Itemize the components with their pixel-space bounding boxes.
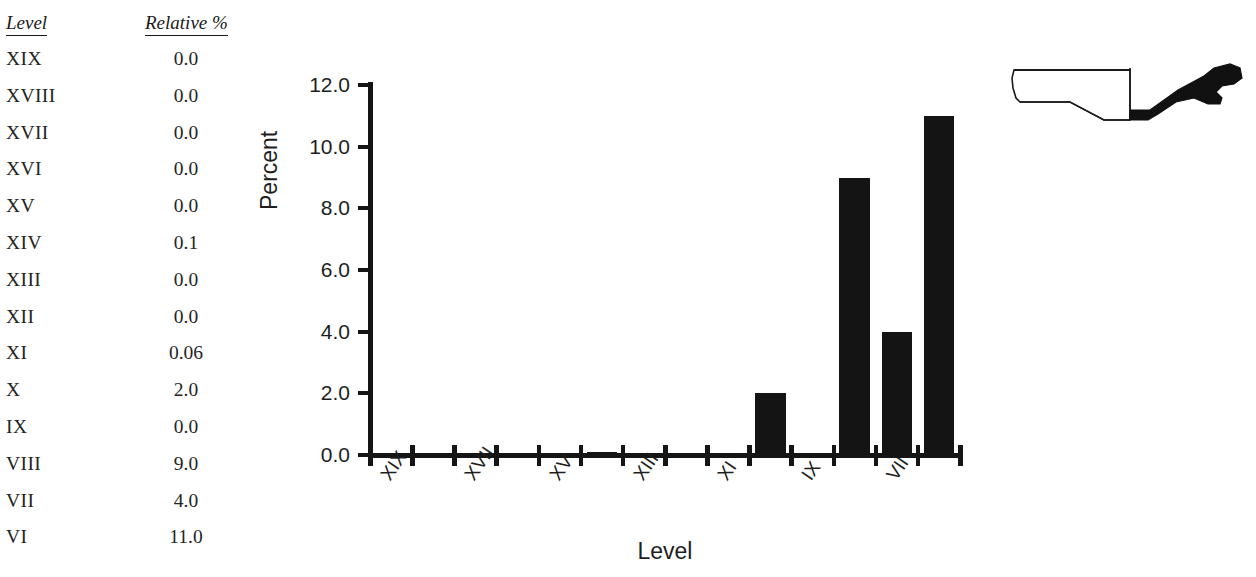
x-axis-tick-label: VII [882,453,913,485]
table-row: VI11.0 [0,526,268,556]
bar-VIII [839,178,869,456]
bars-layer [370,85,960,455]
x-axis-tick-label: XI [713,457,741,484]
y-axis-tick-label: 0.0 [321,443,350,467]
y-axis-tick: 6.0 [358,268,370,272]
table-cell-percent: 0.0 [140,85,232,107]
table-cell-level: X [6,379,20,401]
y-axis-tick-label: 12.0 [309,73,350,97]
y-axis-tick-label: 10.0 [309,135,350,159]
table-cell-level: XVI [6,158,42,180]
y-axis-tick-label: 8.0 [321,196,350,220]
bar-X [755,393,785,455]
table-row: VIII9.0 [0,453,268,483]
relative-percent-table: Level Relative % XIX0.0XVIII0.0XVII0.0XV… [0,0,268,560]
table-cell-level: VI [6,526,27,548]
table-row: XIII0.0 [0,269,268,299]
table-cell-percent: 2.0 [140,379,232,401]
table-cell-percent: 0.1 [140,232,232,254]
table-cell-level: IX [6,416,27,438]
table-row: XII0.0 [0,306,268,336]
table-cell-level: XIX [6,48,42,70]
table-cell-percent: 9.0 [140,453,232,475]
vessel-section-fill [1130,64,1242,120]
y-axis-tick: 10.0 [358,145,370,149]
table-row: XIV0.1 [0,232,268,262]
table-header-level: Level [6,12,47,36]
table-cell-percent: 0.0 [140,158,232,180]
table-row: VII4.0 [0,490,268,520]
y-axis-tick: 4.0 [358,330,370,334]
table-cell-level: XI [6,342,27,364]
bar-XI [713,453,743,456]
bar-VII [882,332,912,455]
table-cell-level: XII [6,306,34,328]
y-axis-title: Percent [256,131,283,210]
table-cell-percent: 0.0 [140,269,232,291]
bar-XIV [587,452,617,455]
x-axis-tick-label: IX [797,457,825,484]
table-cell-percent: 0.0 [140,306,232,328]
table-cell-percent: 11.0 [140,526,232,548]
table-cell-percent: 0.0 [140,48,232,70]
y-axis-tick: 2.0 [358,391,370,395]
table-row: XV0.0 [0,195,268,225]
table-cell-percent: 0.0 [140,416,232,438]
table-cell-percent: 0.0 [140,122,232,144]
table-cell-percent: 4.0 [140,490,232,512]
table-cell-percent: 0.0 [140,195,232,217]
y-axis-tick: 8.0 [358,206,370,210]
y-axis-tick-label: 6.0 [321,258,350,282]
table-cell-level: XIV [6,232,42,254]
table-cell-level: XVIII [6,85,56,107]
y-axis-tick: 12.0 [358,83,370,87]
table-row: XVI0.0 [0,158,268,188]
bar-VI [924,116,954,455]
table-header-percent: Relative % [145,12,228,36]
table-row: XI0.06 [0,342,268,372]
vessel-exterior-outline [1012,70,1130,120]
table-row: XVIII0.0 [0,85,268,115]
x-axis-title: Level [370,538,960,565]
table-row: IX0.0 [0,416,268,446]
table-cell-level: XV [6,195,35,217]
table-cell-level: VIII [6,453,41,475]
vessel-profile-drawing [1008,58,1248,154]
table-cell-level: XIII [6,269,41,291]
y-axis-tick-label: 4.0 [321,320,350,344]
y-axis-tick-label: 2.0 [321,381,350,405]
table-cell-level: XVII [6,122,49,144]
table-row: X2.0 [0,379,268,409]
table-row: XIX0.0 [0,48,268,78]
table-cell-level: VII [6,490,34,512]
table-row: XVII0.0 [0,122,268,152]
table-cell-percent: 0.06 [140,342,232,364]
level-percent-bar-chart: Percent 0.02.04.06.08.010.012.0 XIXXVIIX… [262,60,982,577]
